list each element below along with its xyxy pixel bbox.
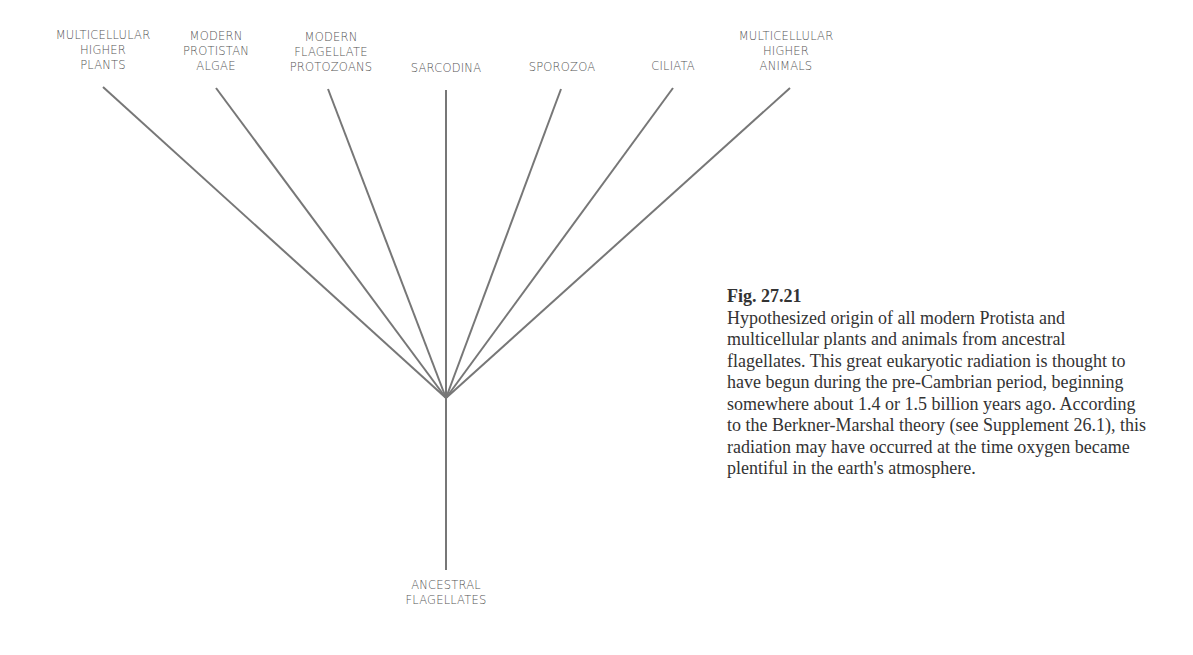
label-line: MULTICELLULAR: [739, 29, 834, 44]
figure-caption: Fig. 27.21 Hypothesized origin of all mo…: [727, 286, 1147, 480]
label-line: PLANTS: [56, 58, 151, 73]
label-line: MODERN: [183, 29, 249, 44]
caption-text: Hypothesized origin of all modern Protis…: [727, 308, 1146, 479]
label-line: SPOROZOA: [529, 60, 596, 75]
label-line: FLAGELLATE: [290, 45, 373, 60]
branch-label-sarcodina: SARCODINA: [411, 61, 481, 76]
label-line: ANIMALS: [739, 59, 834, 74]
label-line: HIGHER: [56, 43, 151, 58]
branch-label-plants: MULTICELLULARHIGHERPLANTS: [56, 28, 151, 73]
branch-label-sporozoa: SPOROZOA: [529, 60, 596, 75]
label-line: HIGHER: [739, 44, 834, 59]
label-line: MODERN: [290, 30, 373, 45]
label-line: FLAGELLATES: [406, 593, 487, 608]
label-line: PROTOZOANS: [290, 60, 373, 75]
branch-label-animals: MULTICELLULARHIGHERANIMALS: [739, 29, 834, 74]
label-line: SARCODINA: [411, 61, 481, 76]
label-line: ALGAE: [183, 59, 249, 74]
branch-line-plants: [103, 87, 446, 398]
label-line: MULTICELLULAR: [56, 28, 151, 43]
branch-label-algae: MODERNPROTISTANALGAE: [183, 29, 249, 74]
branch-label-protozoans: MODERNFLAGELLATEPROTOZOANS: [290, 30, 373, 75]
root-label: ANCESTRALFLAGELLATES: [406, 578, 487, 608]
label-line: PROTISTAN: [183, 44, 249, 59]
branch-line-ciliata: [446, 88, 673, 398]
figure-number: Fig. 27.21: [727, 286, 1147, 308]
branch-label-ciliata: CILIATA: [651, 59, 695, 74]
branch-line-protozoans: [328, 89, 446, 398]
label-line: CILIATA: [651, 59, 695, 74]
branch-line-algae: [216, 88, 446, 398]
label-line: ANCESTRAL: [406, 578, 487, 593]
branch-line-sporozoa: [446, 89, 561, 398]
